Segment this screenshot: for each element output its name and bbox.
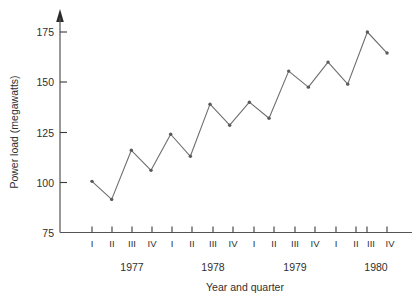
data-series-points: [90, 30, 388, 201]
quarter-label: II: [271, 238, 276, 249]
quarter-label: I: [91, 238, 94, 249]
data-point: [366, 30, 369, 33]
y-tick-label-100: 100: [36, 177, 54, 189]
data-point: [130, 149, 133, 152]
data-point: [307, 85, 310, 88]
x-quarter-labels: I II III IV I II III IV I II III IV I II…: [91, 238, 395, 249]
data-point: [208, 102, 211, 105]
y-tick-label-150: 150: [36, 76, 54, 88]
data-point: [267, 117, 270, 120]
quarter-label: II: [189, 238, 194, 249]
data-point: [287, 69, 290, 72]
data-point: [189, 155, 192, 158]
data-point: [228, 124, 231, 127]
y-tick-label-175: 175: [36, 26, 54, 38]
data-point: [385, 51, 388, 54]
y-tick-labels: 175 150 125 100 75: [36, 26, 54, 239]
y-tick-label-75: 75: [42, 227, 54, 239]
year-label-1977: 1977: [120, 261, 144, 273]
y-tick-label-125: 125: [36, 127, 54, 139]
quarter-label: IV: [386, 238, 396, 249]
quarter-label: III: [209, 238, 217, 249]
quarter-label: III: [367, 238, 375, 249]
data-point: [248, 100, 251, 103]
x-year-labels: 1977 1978 1979 1980: [120, 261, 388, 273]
year-label-1978: 1978: [201, 261, 225, 273]
quarter-label: I: [335, 238, 338, 249]
quarter-label: III: [291, 238, 299, 249]
quarter-label: I: [253, 238, 256, 249]
quarter-label: IV: [148, 238, 158, 249]
year-label-1979: 1979: [283, 261, 307, 273]
y-tick-marks: [60, 32, 67, 183]
x-tick-marks: [92, 227, 387, 233]
x-axis-title: Year and quarter: [206, 281, 284, 293]
quarter-label: II: [353, 238, 358, 249]
data-series-line: [92, 32, 387, 199]
data-point: [90, 180, 93, 183]
quarter-label: IV: [311, 238, 321, 249]
data-point: [326, 60, 329, 63]
quarter-label: III: [128, 238, 136, 249]
y-axis-title: Power load (megawatts): [8, 75, 20, 188]
data-point: [110, 198, 113, 201]
y-axis: [56, 9, 64, 233]
year-label-1980: 1980: [364, 261, 388, 273]
quarter-label: I: [171, 238, 174, 249]
data-point: [346, 82, 349, 85]
data-point: [149, 169, 152, 172]
quarter-label: IV: [229, 238, 239, 249]
quarter-label: II: [109, 238, 114, 249]
data-point: [169, 133, 172, 136]
line-chart: 175 150 125 100 75 Power load (megawatts…: [0, 0, 420, 299]
chart-svg: 175 150 125 100 75 Power load (megawatts…: [0, 0, 420, 299]
